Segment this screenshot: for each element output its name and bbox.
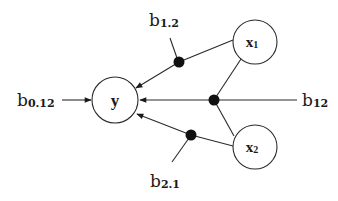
edge-b12-dot-to-y: [136, 62, 179, 88]
label-b0-12: b0.12: [17, 90, 55, 110]
edge-x2-to-b21-dot: [191, 135, 233, 146]
edge-x1-to-b12-dot: [179, 40, 233, 62]
coefficient-dot-b12: [209, 95, 220, 106]
coefficient-dot-b2-1: [186, 130, 197, 141]
edge-x1-to-interaction: [214, 59, 241, 100]
edge-b21-dot-to-y: [137, 114, 191, 135]
coefficient-dot-b1-2: [174, 57, 185, 68]
edge-x2-to-interaction: [214, 100, 234, 136]
label-b2-1: b2.1: [150, 171, 180, 191]
path-diagram: y x1 x2 b0.12 b1.2 b12 b2.1: [0, 0, 338, 201]
node-y-label: y: [111, 91, 120, 110]
label-b1-2: b1.2: [149, 10, 179, 30]
edge-b2-1-label-to-dot: [172, 138, 189, 162]
edge-b1-2-label-to-dot: [170, 38, 177, 58]
label-b12: b12: [302, 90, 328, 110]
